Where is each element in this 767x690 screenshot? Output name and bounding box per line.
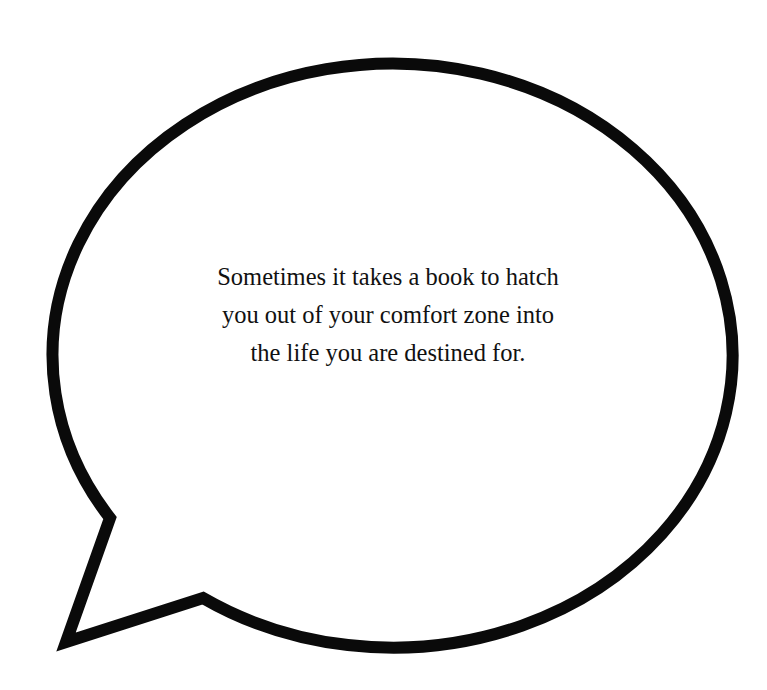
quote-text: Sometimes it takes a book to hatch you o… <box>150 258 626 372</box>
quote-line-1: Sometimes it takes a book to hatch <box>150 258 626 296</box>
quote-line-3: the life you are destined for. <box>150 334 626 372</box>
quote-line-2: you out of your comfort zone into <box>150 296 626 334</box>
